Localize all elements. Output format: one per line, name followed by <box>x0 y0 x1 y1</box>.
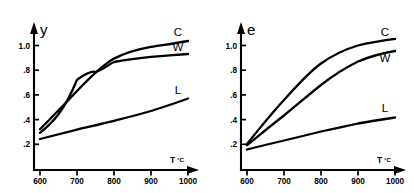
series-label-left-C: C <box>174 26 182 38</box>
curve-right-L <box>247 118 395 150</box>
y-tick-label-right-4: 1.0 <box>226 42 238 51</box>
x-tick-label-left-4: 1000 <box>179 177 198 186</box>
y-tick-label-right-1: .4 <box>230 116 237 125</box>
y-tick-label-left-1: .4 <box>23 116 30 125</box>
x-axis-unit-right: °C <box>384 156 391 163</box>
x-tick-label-right-2: 800 <box>314 177 328 186</box>
chart-panel-right: 1.0 .8 .6 .4 .2 600 700 800 900 1000 e <box>207 0 414 193</box>
x-axis-unit-left: °C <box>177 156 184 163</box>
axes-right <box>237 22 406 174</box>
x-tick-label-right-3: 900 <box>351 177 365 186</box>
series-curves-left <box>40 41 188 139</box>
series-label-left-L: L <box>175 84 182 96</box>
y-tick-labels-right: 1.0 .8 .6 .4 .2 <box>226 42 238 150</box>
x-tick-labels-left: 600 700 800 900 1000 <box>33 177 197 186</box>
y-tick-label-left-3: .8 <box>23 66 30 75</box>
series-label-right-W: W <box>380 52 391 64</box>
x-tick-label-left-3: 900 <box>144 177 158 186</box>
y-tick-label-left-4: 1.0 <box>19 42 31 51</box>
chart-panel-left: 1.0 .8 .6 .4 .2 600 700 800 900 1000 y <box>0 0 207 193</box>
x-tick-label-right-4: 1000 <box>386 177 405 186</box>
x-tick-label-left-0: 600 <box>33 177 47 186</box>
y-tick-label-right-2: .6 <box>230 91 237 100</box>
x-tick-label-right-0: 600 <box>240 177 254 186</box>
x-tick-label-left-2: 800 <box>107 177 121 186</box>
series-labels-left: C W L <box>173 26 184 96</box>
curve-left-L <box>40 99 188 140</box>
y-axis-arrow-right <box>237 22 245 34</box>
chart-right-svg: 1.0 .8 .6 .4 .2 600 700 800 900 1000 e <box>207 0 414 193</box>
y-tick-label-left-2: .6 <box>23 91 30 100</box>
y-axis-arrow-left <box>30 22 38 34</box>
y-axis-title-left: y <box>40 21 48 38</box>
figure-sheet: 1.0 .8 .6 .4 .2 600 700 800 900 1000 y <box>0 0 414 193</box>
y-tick-label-left-0: .2 <box>23 140 30 149</box>
series-label-left-W: W <box>173 41 184 53</box>
y-tick-labels-left: 1.0 .8 .6 .4 .2 <box>19 42 31 150</box>
series-label-right-C: C <box>381 26 389 38</box>
y-tick-label-right-3: .8 <box>230 66 237 75</box>
y-tick-label-right-0: .2 <box>230 140 237 149</box>
x-tick-label-left-1: 700 <box>70 177 84 186</box>
x-axis-title-right: T <box>377 155 383 165</box>
x-tick-label-right-1: 700 <box>277 177 291 186</box>
y-axis-title-right: e <box>247 21 255 38</box>
series-curves-right <box>247 39 395 150</box>
chart-left-svg: 1.0 .8 .6 .4 .2 600 700 800 900 1000 y <box>0 0 207 193</box>
curve-left-C <box>40 41 188 129</box>
x-axis-title-left: T <box>170 155 176 165</box>
x-tick-labels-right: 600 700 800 900 1000 <box>240 177 404 186</box>
series-label-right-L: L <box>382 102 389 114</box>
